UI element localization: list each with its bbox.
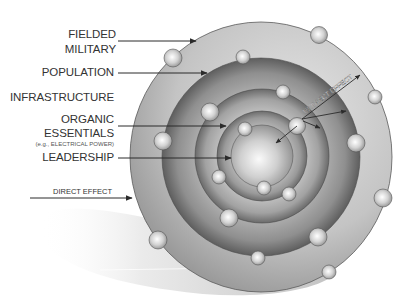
node xyxy=(322,265,336,279)
node xyxy=(276,85,290,99)
node xyxy=(212,170,226,184)
node xyxy=(154,132,172,150)
node xyxy=(149,231,167,249)
label-military: MILITARY xyxy=(65,44,116,56)
node xyxy=(201,103,219,121)
label-organic-example: (e.g., ELECTRICAL POWER) xyxy=(36,141,114,147)
label-infrastructure: INFRASTRUCTURE xyxy=(10,92,114,104)
label-direct-effect: DIRECT EFFECT xyxy=(53,188,112,196)
node xyxy=(238,122,252,136)
node xyxy=(368,90,382,104)
label-population: POPULATION xyxy=(42,67,114,79)
label-fielded: FIELDED xyxy=(68,29,116,41)
node xyxy=(309,228,327,246)
label-essentials: ESSENTIALS xyxy=(44,128,114,140)
five-rings-diagram: INDIRECT EFFECT FIELDED MILITARY POPULAT… xyxy=(0,0,411,307)
node xyxy=(282,187,296,201)
node xyxy=(251,251,265,265)
node xyxy=(236,50,250,64)
node xyxy=(374,189,392,207)
label-leadership: LEADERSHIP xyxy=(42,152,114,164)
node xyxy=(311,27,328,44)
node xyxy=(164,49,182,67)
node xyxy=(220,209,238,227)
node xyxy=(257,181,271,195)
node xyxy=(347,134,365,152)
label-organic: ORGANIC xyxy=(61,114,114,126)
